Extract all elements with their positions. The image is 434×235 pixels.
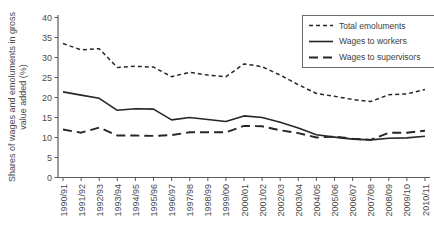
- legend-label-total-emoluments: Total emoluments: [339, 21, 406, 31]
- legend-item-total-emoluments: Total emoluments: [308, 19, 434, 33]
- x-tick-label: 1997/98: [185, 184, 195, 217]
- legend-label-wages-to-supervisors: Wages to supervisors: [339, 52, 420, 62]
- y-tick-label: 20: [42, 93, 52, 103]
- x-tick-label: 2001/02: [258, 184, 268, 217]
- short-dashed-line-icon: [308, 21, 334, 30]
- y-tick-label: 10: [42, 133, 52, 143]
- y-tick-label: 15: [42, 113, 52, 123]
- x-tick-label: 2006/07: [348, 184, 358, 217]
- x-tick-label: 2002/03: [276, 184, 286, 217]
- x-tick-label: 1991/92: [77, 184, 87, 217]
- x-tick-label: 1992/93: [95, 184, 105, 217]
- x-tick-label: 1990/91: [59, 184, 69, 217]
- series-line-solid: [63, 92, 425, 140]
- x-tick-label: 2004/05: [312, 184, 322, 217]
- x-tick-label: 1999/00: [221, 184, 231, 217]
- y-tick-label: 30: [42, 53, 52, 63]
- x-tick-label: 2009/10: [402, 184, 412, 217]
- x-tick-label: 2000/01: [240, 184, 250, 217]
- x-tick-label: 1993/94: [113, 184, 123, 217]
- legend: Total emoluments Wages to workers Wages …: [302, 15, 434, 68]
- y-tick-label: 35: [42, 33, 52, 43]
- solid-line-icon: [308, 37, 334, 46]
- y-tick-label: 25: [42, 73, 52, 83]
- chart-figure: Shares of wages and emoluments in gross …: [0, 0, 434, 235]
- long-dashed-line-icon: [308, 53, 334, 62]
- y-tick-label: 0: [47, 173, 52, 183]
- x-tick-label: 1996/97: [167, 184, 177, 217]
- x-tick-label: 2003/04: [294, 184, 304, 217]
- legend-item-wages-to-supervisors: Wages to supervisors: [308, 50, 434, 64]
- x-tick-label: 2005/06: [330, 184, 340, 217]
- y-tick-label: 40: [42, 13, 52, 23]
- x-tick-label: 2008/09: [384, 184, 394, 217]
- series-line-dashed-long: [63, 126, 425, 140]
- y-tick-label: 5: [47, 153, 52, 163]
- legend-item-wages-to-workers: Wages to workers: [308, 34, 434, 48]
- x-tick-label: 1995/96: [149, 184, 159, 217]
- legend-label-wages-to-workers: Wages to workers: [339, 36, 407, 46]
- x-tick-label: 1994/95: [131, 184, 141, 217]
- x-tick-label: 1998/99: [203, 184, 213, 217]
- x-tick-label: 2010/11: [421, 184, 431, 216]
- x-tick-label: 2007/08: [366, 184, 376, 217]
